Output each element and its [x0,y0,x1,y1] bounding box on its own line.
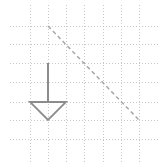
dotted-grid [10,5,160,162]
diagram-canvas [0,0,166,167]
diagram-svg [0,0,166,167]
